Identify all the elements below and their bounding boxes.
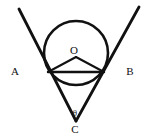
radius-to-left-tangent: [48, 57, 76, 72]
radius-to-right-tangent: [76, 57, 104, 72]
label-theta: θ: [73, 109, 77, 118]
label-a: A: [11, 66, 19, 77]
label-o: O: [70, 45, 78, 56]
tangent-ray-ca: [19, 9, 76, 121]
label-b: B: [126, 66, 133, 77]
geometry-figure: A B O C θ: [0, 0, 148, 139]
label-c: C: [71, 124, 78, 135]
